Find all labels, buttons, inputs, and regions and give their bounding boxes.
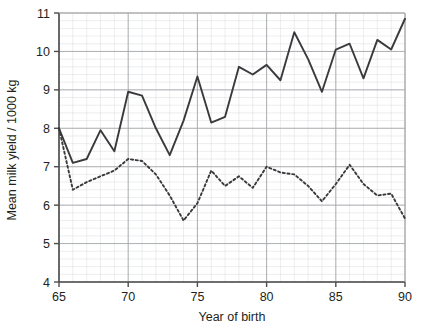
series-solid-line (59, 19, 405, 163)
y-tick-label: 7 (43, 160, 50, 174)
x-tick-label: 70 (121, 290, 135, 304)
y-tick-label: 11 (37, 7, 50, 21)
y-tick-label: 6 (43, 199, 50, 213)
line-chart: 4567891011 657075808590 Year of birth Me… (0, 0, 430, 329)
y-tick-label: 10 (36, 45, 50, 59)
y-tick-label: 9 (43, 83, 50, 97)
x-tick-label: 80 (260, 290, 274, 304)
y-tick-label: 4 (43, 276, 50, 290)
x-tick-label: 85 (329, 290, 343, 304)
y-tick-label: 5 (43, 237, 50, 251)
x-axis-title: Year of birth (199, 310, 266, 324)
x-tick-label: 90 (398, 290, 412, 304)
y-tick-label: 8 (43, 122, 50, 136)
x-axis-tick-labels: 657075808590 (52, 290, 412, 304)
y-axis-tick-labels: 4567891011 (36, 7, 50, 290)
chart-figure: 4567891011 657075808590 Year of birth Me… (0, 0, 430, 329)
y-axis-title: Mean milk yield / 1000 kg (5, 79, 19, 220)
x-tick-label: 65 (52, 290, 66, 304)
x-tick-label: 75 (190, 290, 204, 304)
